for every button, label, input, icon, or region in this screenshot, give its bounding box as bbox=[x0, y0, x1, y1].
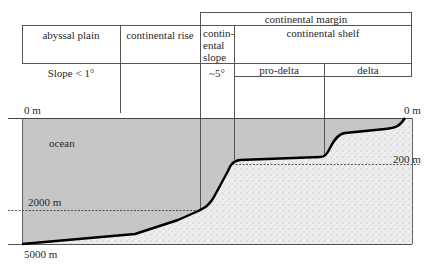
label-ocean: ocean bbox=[49, 137, 75, 150]
label-depth-0-left: 0 m bbox=[24, 104, 41, 117]
label-continental-slope-3: slope bbox=[203, 51, 226, 64]
label-delta: delta bbox=[324, 64, 412, 77]
label-continental-slope-angle: ~5° bbox=[200, 67, 234, 80]
label-depth-200: 200 m bbox=[393, 153, 421, 166]
label-abyssal-plain: abyssal plain bbox=[22, 29, 120, 42]
label-abyssal-slope: Slope < 1° bbox=[22, 67, 120, 80]
label-continental-rise: continental rise bbox=[120, 29, 200, 42]
label-continental-shelf: continental shelf bbox=[234, 27, 412, 40]
label-continental-margin: continental margin bbox=[200, 13, 412, 26]
label-pro-delta: pro-delta bbox=[234, 64, 324, 77]
label-depth-5000: 5000 m bbox=[24, 248, 57, 261]
label-depth-0-right: 0 m bbox=[404, 104, 421, 117]
label-depth-2000: 2000 m bbox=[28, 196, 61, 209]
continental-margin-diagram: continental margin abyssal plain contine… bbox=[0, 0, 442, 268]
